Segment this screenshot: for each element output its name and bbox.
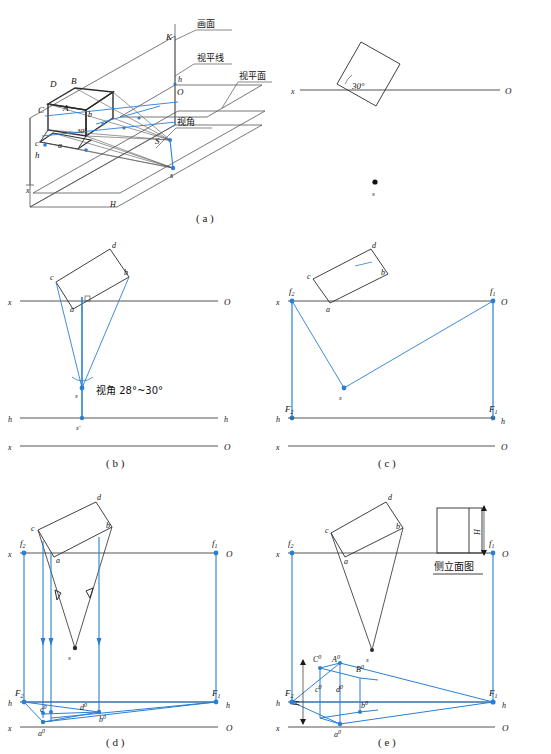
label-a-ground: H xyxy=(109,200,117,209)
label-horizon-line: 视平线 xyxy=(197,52,224,63)
label-a-B: B xyxy=(71,76,77,86)
label-b-s: s xyxy=(75,392,78,400)
label-c-x-top: x xyxy=(275,298,280,307)
label-d-O-bottom: O xyxy=(226,723,233,733)
panel-c: x O c d a b f2 f1 F2 F1 s h h x O xyxy=(275,241,508,452)
label-e-d: d xyxy=(388,493,393,502)
label-e-f1: f1 xyxy=(489,538,495,549)
label-c-F1: F1 xyxy=(488,404,498,415)
label-d-c: c xyxy=(31,524,35,533)
label-d-c0: c0 xyxy=(40,704,47,714)
label-e-F1: F1 xyxy=(488,688,498,699)
label-c-s: s xyxy=(339,394,342,402)
panel-d: x O c d a b s h h x O xyxy=(7,493,233,738)
label-a-O: O xyxy=(177,87,184,97)
label-b-O-bottom: O xyxy=(224,442,231,452)
label-d-f1: f1 xyxy=(212,538,218,549)
label-e-a0: a0 xyxy=(334,729,341,739)
label-e-O-top: O xyxy=(502,549,509,559)
label-c-O-top: O xyxy=(501,297,508,307)
label-c-x-bottom: x xyxy=(275,443,280,452)
panel-a-pictorial: 画面 视平线 视平面 视角 K h O h x H D B C A c a b … xyxy=(25,19,272,209)
label-b-h-right: h xyxy=(224,415,228,424)
label-e-f2: f2 xyxy=(288,538,294,549)
label-view-angle: 视角 xyxy=(177,116,195,127)
label-a-h-left: h xyxy=(35,150,40,160)
label-picture-plane: 画面 xyxy=(197,19,215,29)
label-c-h-right: h xyxy=(501,417,505,426)
label-e-d0: d0 xyxy=(336,684,343,694)
label-c-h-left: h xyxy=(276,415,280,424)
panel-e: x O c d a b s H 侧立面图 f2 f1 h h x O xyxy=(275,493,509,739)
label-d-h-right: h xyxy=(226,701,230,710)
label-e-b0: b0 xyxy=(361,700,368,710)
label-c-O-bottom: O xyxy=(501,442,508,452)
label-c-a: a xyxy=(326,305,330,314)
label-d-d: d xyxy=(97,493,102,502)
label-b-b: b xyxy=(124,268,128,277)
perspective-construction-figure: 画面 视平线 视平面 视角 K h O h x H D B C A c a b … xyxy=(0,0,551,754)
label-b-x-bottom: x xyxy=(7,443,12,452)
label-a-a: a xyxy=(58,141,62,150)
label-c-d: d xyxy=(372,241,377,250)
caption-a: ( a ) xyxy=(196,212,214,224)
label-a-C: C xyxy=(38,105,45,115)
label-d-O-top: O xyxy=(226,549,233,559)
label-e-a: a xyxy=(344,557,348,566)
label-a-A: A xyxy=(62,103,69,113)
label-d-a0: a0 xyxy=(38,728,45,738)
label-b-O-top: O xyxy=(224,297,231,307)
label-e-c0: c0 xyxy=(315,684,322,694)
label-vision-plane: 视平面 xyxy=(239,70,266,81)
label-e-s: s xyxy=(366,656,369,664)
label-a-h-right: h xyxy=(178,75,182,84)
label-e-side-elevation: 侧立面图 xyxy=(434,560,474,572)
label-e-O-bottom: O xyxy=(502,723,509,733)
panel-a-plan: 30° x O s xyxy=(290,42,512,198)
label-d-F1: F1 xyxy=(211,688,221,699)
caption-c: ( c ) xyxy=(378,457,396,469)
label-e-C0: C0 xyxy=(313,654,321,664)
label-b-s-prime: s' xyxy=(76,424,81,432)
label-c-c: c xyxy=(307,272,311,281)
label-b-d: d xyxy=(112,241,117,250)
label-plan-x: x xyxy=(290,87,295,96)
label-b-c: c xyxy=(50,273,54,282)
label-a-x: x xyxy=(25,186,30,195)
caption-e: ( e ) xyxy=(378,736,396,748)
label-e-c: c xyxy=(325,526,329,535)
label-d-a: a xyxy=(56,556,60,565)
label-d-F2: F2 xyxy=(14,688,24,699)
label-e-h-right: h xyxy=(502,701,506,710)
label-d-b0: b0 xyxy=(99,714,106,724)
label-b-a: a xyxy=(70,305,74,314)
label-d-x-top: x xyxy=(7,550,12,559)
label-e-x-bottom: x xyxy=(275,724,280,733)
label-plan-angle-30: 30° xyxy=(351,81,365,91)
label-d-f2: f2 xyxy=(20,538,26,549)
label-e-x-top: x xyxy=(275,550,280,559)
label-c-b: b xyxy=(381,268,385,277)
label-a-b: b xyxy=(88,110,92,119)
label-b-view-angle: 视角 28°~30° xyxy=(96,384,163,396)
label-d-s: s xyxy=(68,654,71,662)
label-a-s-plan: s xyxy=(170,171,173,180)
label-b-h-left: h xyxy=(8,415,12,424)
label-a-S-space: S xyxy=(155,136,160,146)
label-e-B0: B0 xyxy=(356,664,364,674)
label-plan-s: s xyxy=(372,190,375,198)
label-b-x-top: x xyxy=(7,298,12,307)
label-e-h-left: h xyxy=(276,699,280,708)
label-d-h-left: h xyxy=(8,699,12,708)
panel-b: x O c d a b s 视角 28°~30° h h s' x O xyxy=(7,241,231,452)
label-c-f1: f1 xyxy=(490,286,496,297)
label-e-height-dim: H xyxy=(473,528,482,536)
caption-b: ( b ) xyxy=(106,457,124,469)
label-plan-O: O xyxy=(505,86,512,96)
label-a-K: K xyxy=(165,32,173,42)
label-d-b: b xyxy=(106,521,110,530)
label-a-D: D xyxy=(49,79,57,89)
label-c-f2: f2 xyxy=(289,286,295,297)
label-e-b: b xyxy=(396,522,400,531)
label-a-angle-30: 30° xyxy=(76,127,87,135)
